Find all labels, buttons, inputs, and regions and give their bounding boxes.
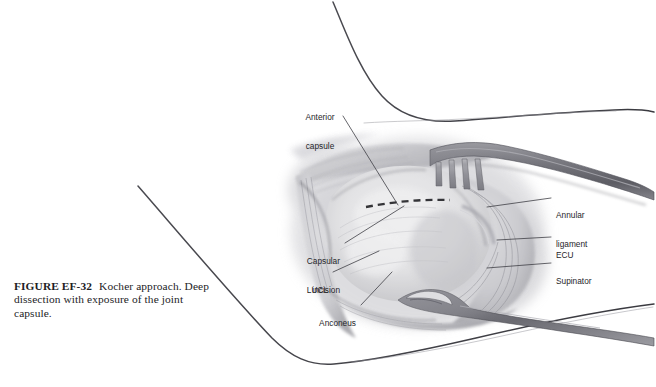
label-anconeus: Anconeus (240, 300, 356, 348)
label-anterior-capsule: Anterior capsule (284, 94, 356, 171)
label-annular-ligament-line1: Annular (556, 211, 652, 221)
figure-number: FIGURE EF-32 (14, 280, 92, 292)
arm-outline-top (333, 2, 654, 123)
figure-caption: FIGURE EF-32Kocher approach. Deep dissec… (14, 280, 219, 320)
label-anterior-capsule-line1: Anterior (284, 113, 356, 123)
figure-root: FIGURE EF-32Kocher approach. Deep dissec… (0, 0, 656, 387)
label-anterior-capsule-line2: capsule (284, 142, 356, 152)
label-lucl-line1: LUCL (250, 286, 328, 296)
label-supinator: Supinator (556, 258, 652, 306)
label-capsular-incision-line1: Capsular (244, 257, 340, 267)
label-anconeus-line1: Anconeus (240, 319, 356, 329)
label-supinator-line1: Supinator (556, 277, 652, 287)
